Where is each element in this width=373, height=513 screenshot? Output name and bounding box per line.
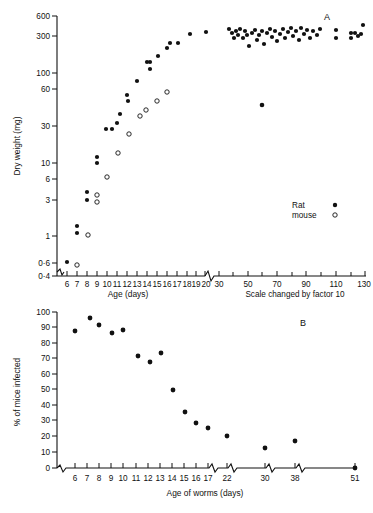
panel-b-x-tick-label: 14 bbox=[167, 474, 177, 483]
data-point bbox=[243, 29, 247, 33]
panel-b-x-tick-label: 13 bbox=[155, 474, 165, 483]
data-point bbox=[165, 90, 169, 94]
data-point bbox=[168, 41, 172, 45]
panel-a-x-tick-labels: 6 7 8 9 10 11 12 13 14 15 16 17 18 19 20… bbox=[65, 280, 372, 289]
panel-a-x-axis-label: Age (days) bbox=[108, 289, 149, 299]
data-point bbox=[73, 329, 78, 334]
panel-a-legend: Rat mouse bbox=[292, 201, 337, 220]
panel-a-x-tick-label: 16 bbox=[162, 280, 172, 289]
panel-b-y-tick-labels: 100 90 80 70 60 50 40 30 20 10 0 bbox=[36, 308, 50, 473]
panel-b-letter: B bbox=[300, 318, 306, 328]
panel-a-x-tick-label: 10 bbox=[102, 280, 112, 289]
data-point bbox=[294, 29, 298, 33]
data-point bbox=[86, 233, 90, 237]
data-point bbox=[95, 193, 99, 197]
panel-a-x-tick-label: 13 bbox=[132, 280, 142, 289]
panel-b-x-tick-labels: 6 7 8 9 10 11 12 13 14 15 16 17 22 30 38… bbox=[73, 474, 360, 483]
data-point bbox=[194, 421, 199, 426]
data-point bbox=[95, 200, 99, 204]
data-point bbox=[265, 31, 269, 35]
panel-a-x-tick-label: 30 bbox=[214, 280, 224, 289]
data-point bbox=[104, 127, 108, 131]
panel-a-x-tick-label: 130 bbox=[357, 280, 371, 289]
data-point bbox=[121, 328, 126, 333]
data-point bbox=[299, 26, 303, 30]
data-point bbox=[183, 410, 188, 415]
panel-a-y-tick-label: 0·6 bbox=[38, 259, 50, 268]
panel-b-y-tick-label: 40 bbox=[41, 401, 51, 410]
data-point bbox=[275, 39, 279, 43]
data-point bbox=[260, 29, 264, 33]
data-point bbox=[75, 263, 79, 267]
data-point bbox=[204, 30, 208, 34]
data-point bbox=[241, 36, 245, 40]
panel-a-y-axis-label: Dry weight (mg) bbox=[12, 116, 22, 175]
data-point bbox=[302, 32, 306, 36]
data-point-outlier bbox=[260, 103, 265, 108]
panel-b-y-tick-label: 10 bbox=[41, 448, 51, 457]
data-point bbox=[65, 260, 69, 264]
panel-b-y-tick-label: 80 bbox=[41, 339, 51, 348]
panel-b-y-ticks bbox=[52, 312, 57, 468]
data-point bbox=[245, 33, 249, 37]
data-point bbox=[253, 28, 257, 32]
legend-label-rat: Rat bbox=[292, 201, 305, 210]
panel-a-x-tick-label: 9 bbox=[95, 280, 100, 289]
panel-a-series-rat bbox=[65, 23, 365, 264]
data-point bbox=[257, 33, 261, 37]
data-point bbox=[148, 60, 152, 64]
data-point bbox=[289, 26, 293, 30]
data-point bbox=[125, 93, 129, 97]
panel-a-x-tick-label: 20 bbox=[201, 280, 211, 289]
panel-b-x-tick-label: 12 bbox=[143, 474, 153, 483]
data-point bbox=[105, 175, 109, 179]
panel-b-series bbox=[73, 316, 358, 471]
data-point bbox=[305, 28, 309, 32]
data-point bbox=[171, 388, 176, 393]
panel-a-x-tick-label: 12 bbox=[122, 280, 132, 289]
panel-a-x-ticks bbox=[67, 271, 365, 276]
data-point bbox=[238, 27, 242, 31]
panel-a-x-tick-label: 50 bbox=[243, 280, 253, 289]
panel-b-x-ticks bbox=[75, 463, 355, 468]
data-point bbox=[155, 99, 159, 103]
data-point bbox=[110, 127, 114, 131]
panel-a-y-tick-label: 300 bbox=[36, 32, 50, 41]
data-point bbox=[75, 231, 79, 235]
data-point bbox=[334, 36, 338, 40]
data-point bbox=[234, 29, 238, 33]
data-point bbox=[148, 67, 152, 71]
data-point bbox=[262, 42, 266, 46]
panel-b-x-axis-label: Age of worms (days) bbox=[167, 488, 244, 498]
panel-a-series-mouse bbox=[75, 90, 169, 267]
data-point bbox=[318, 27, 322, 31]
data-point bbox=[353, 31, 357, 35]
panel-b-x-tick-label: 11 bbox=[132, 474, 141, 483]
data-point bbox=[308, 36, 312, 40]
panel-b-y-tick-label: 50 bbox=[41, 385, 51, 394]
data-point bbox=[127, 132, 131, 136]
legend-label-mouse: mouse bbox=[292, 211, 317, 220]
panel-a-y-tick-label: 0·4 bbox=[38, 272, 50, 281]
panel-b-y-tick-label: 100 bbox=[36, 308, 50, 317]
panel-a-x-tick-label: 8 bbox=[85, 280, 90, 289]
panel-b-x-tick-label: 9 bbox=[109, 474, 114, 483]
panel-b-x-tick-label: 38 bbox=[290, 474, 300, 483]
panel-b-x-axis bbox=[57, 464, 357, 472]
panel-a: 600 300 100 60 30 10 6 3 1 0·6 0·4 bbox=[12, 12, 371, 299]
data-point bbox=[334, 28, 338, 32]
data-point bbox=[286, 30, 290, 34]
panel-a-x-tick-label: 110 bbox=[329, 280, 342, 289]
data-point bbox=[349, 36, 353, 40]
data-point bbox=[156, 54, 160, 58]
panel-b-y-tick-label: 0 bbox=[45, 464, 50, 473]
data-point bbox=[273, 29, 277, 33]
data-point bbox=[359, 32, 363, 36]
data-point bbox=[232, 36, 236, 40]
panel-b-y-tick-label: 60 bbox=[41, 370, 51, 379]
data-point bbox=[225, 434, 230, 439]
data-point bbox=[268, 27, 272, 31]
panel-a-x-tick-label: 11 bbox=[113, 280, 122, 289]
data-point bbox=[349, 31, 353, 35]
data-point bbox=[270, 35, 274, 39]
